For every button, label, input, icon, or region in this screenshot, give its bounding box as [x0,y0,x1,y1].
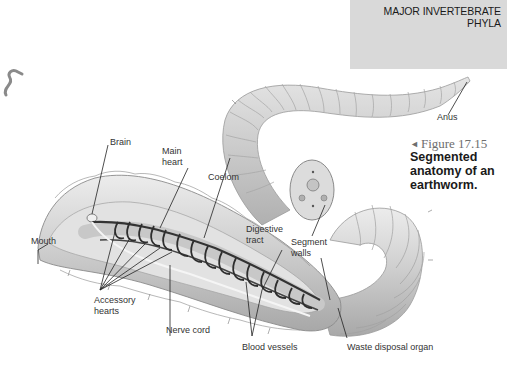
label-accessory-hearts-line1: Accessory [94,295,136,306]
label-blood-vessels: Blood vessels [242,342,298,353]
label-coelom: Coelom [208,172,239,183]
label-anus: Anus [437,112,458,123]
small-worm-icon [5,71,22,95]
figure-caption: Segmented anatomy of an earthworm. [410,150,507,192]
label-main-heart-line2: heart [162,157,183,168]
label-nerve-cord: Nerve cord [166,325,210,336]
figure-pointer-icon: ◄ [410,139,419,149]
label-segment-walls-line1: Segment [291,237,327,248]
label-main-heart: Main heart [162,146,183,168]
label-main-heart-line1: Main [162,146,183,157]
label-waste-disposal-organ: Waste disposal organ [347,342,433,353]
caption-line1: Segmented [410,150,507,164]
label-digestive-tract-line1: Digestive [246,224,283,235]
label-mouth: Mouth [31,236,56,247]
label-digestive-tract: Digestive tract [246,224,283,246]
caption-line2: anatomy of an [410,164,507,178]
label-accessory-hearts-line2: hearts [94,306,136,317]
figure-number-text: Figure 17.15 [421,136,487,151]
label-segment-walls-line2: walls [291,248,327,259]
label-digestive-tract-line2: tract [246,235,283,246]
caption-line3: earthworm. [410,178,507,192]
label-accessory-hearts: Accessory hearts [94,295,136,317]
label-segment-walls: Segment walls [291,237,327,259]
label-brain: Brain [110,137,131,148]
